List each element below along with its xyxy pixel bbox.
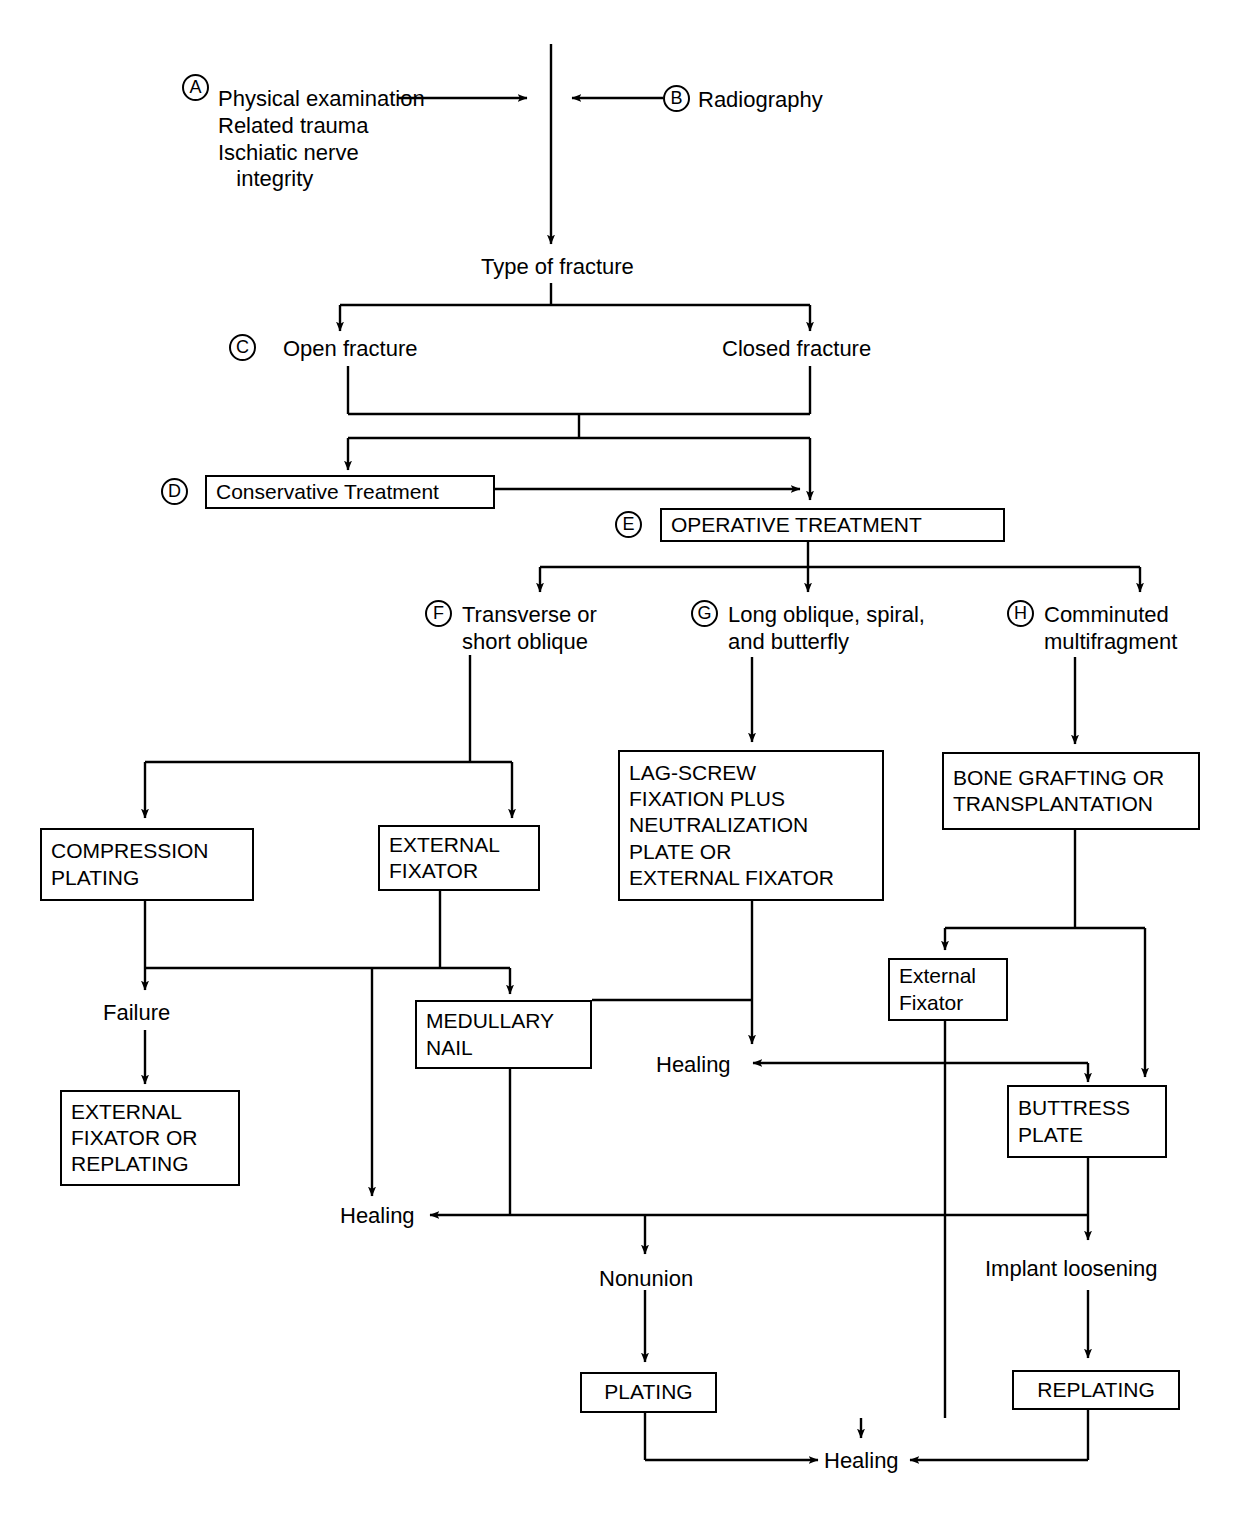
step-marker-c: C (229, 334, 256, 361)
conservative-treatment-text: Conservative Treatment (207, 479, 448, 505)
step-marker-g: G (691, 600, 718, 627)
healing-mid-label: Healing (656, 1052, 731, 1079)
healing-bottom-label: Healing (824, 1448, 899, 1475)
node-compression-plating[interactable]: COMPRESSION PLATING (40, 828, 254, 901)
step-h-label: Comminuted multifragment (1044, 602, 1177, 656)
nonunion-label: Nonunion (599, 1266, 693, 1293)
step-marker-d: D (161, 478, 188, 505)
node-external-fixator-or-replating[interactable]: EXTERNAL FIXATOR OR REPLATING (60, 1090, 240, 1186)
step-a-label: Physical examination Related trauma Isch… (218, 86, 425, 193)
node-buttress-plate[interactable]: BUTTRESS PLATE (1007, 1085, 1167, 1158)
node-plating[interactable]: PLATING (580, 1372, 717, 1413)
bone-grafting-text: BONE GRAFTING OR TRANSPLANTATION (944, 765, 1173, 817)
node-replating[interactable]: REPLATING (1012, 1370, 1180, 1410)
node-operative-treatment[interactable]: OPERATIVE TREATMENT (660, 508, 1005, 542)
node-conservative-treatment[interactable]: Conservative Treatment (205, 475, 495, 509)
operative-treatment-text: OPERATIVE TREATMENT (662, 512, 931, 538)
buttress-plate-text: BUTTRESS PLATE (1009, 1095, 1139, 1147)
open-fracture-label: Open fracture (283, 336, 418, 363)
step-g-label: Long oblique, spiral, and butterfly (728, 602, 925, 656)
failure-label: Failure (103, 1000, 170, 1027)
lag-screw-text: LAG-SCREW FIXATION PLUS NEUTRALIZATION P… (620, 760, 843, 890)
step-f-label: Transverse or short oblique (462, 602, 597, 656)
step-marker-f: F (425, 600, 452, 627)
step-marker-b: B (663, 85, 690, 112)
node-external-fixator-2[interactable]: External Fixator (888, 958, 1008, 1021)
healing-left-label: Healing (340, 1203, 415, 1230)
node-bone-grafting[interactable]: BONE GRAFTING OR TRANSPLANTATION (942, 752, 1200, 830)
medullary-nail-text: MEDULLARY NAIL (417, 1008, 563, 1060)
flowchart-canvas: A Physical examination Related trauma Is… (0, 0, 1251, 1531)
external-fixator-2-text: External Fixator (890, 963, 985, 1015)
node-lag-screw-fixation[interactable]: LAG-SCREW FIXATION PLUS NEUTRALIZATION P… (618, 750, 884, 901)
closed-fracture-label: Closed fracture (722, 336, 871, 363)
step-b-label: Radiography (698, 87, 823, 114)
plating-text: PLATING (595, 1379, 701, 1405)
node-external-fixator[interactable]: EXTERNAL FIXATOR (378, 825, 540, 891)
step-marker-a: A (182, 74, 209, 101)
step-marker-h: H (1007, 600, 1034, 627)
external-fixator-or-replating-text: EXTERNAL FIXATOR OR REPLATING (62, 1099, 206, 1177)
step-marker-e: E (615, 511, 642, 538)
node-medullary-nail[interactable]: MEDULLARY NAIL (415, 1000, 592, 1069)
compression-plating-text: COMPRESSION PLATING (42, 838, 218, 890)
implant-loosening-label: Implant loosening (985, 1256, 1157, 1283)
external-fixator-text: EXTERNAL FIXATOR (380, 832, 509, 884)
type-of-fracture-label: Type of fracture (481, 254, 634, 281)
replating-text: REPLATING (1028, 1377, 1163, 1403)
